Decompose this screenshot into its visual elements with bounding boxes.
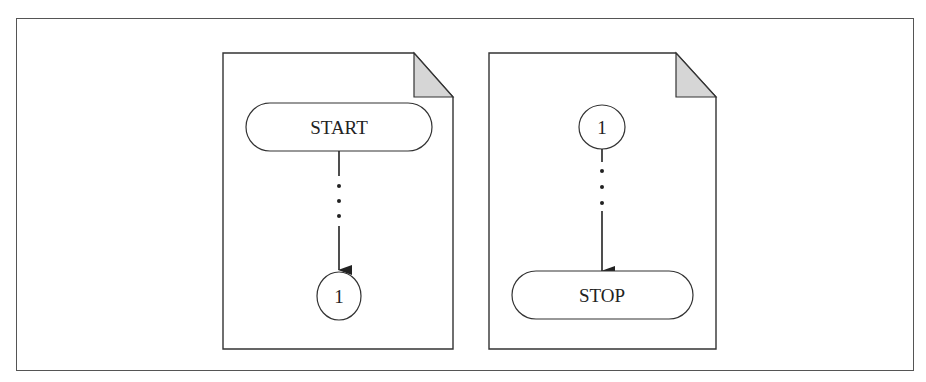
ellipsis-dot (337, 199, 341, 203)
page-left-fold-icon (414, 53, 453, 97)
diagram-canvas: START 1 1 (0, 0, 926, 382)
connector-label: 1 (334, 286, 344, 307)
page-right: 1 STOP (489, 53, 716, 349)
ellipsis-dot (337, 184, 341, 188)
page-right-fold-icon (676, 53, 716, 97)
ellipsis-dot (600, 169, 604, 173)
ellipsis-dot (337, 214, 341, 218)
page-left: START 1 (223, 53, 453, 349)
connector-label: 1 (597, 117, 607, 138)
stop-terminal: STOP (512, 271, 693, 319)
off-page-connector-right: 1 (579, 105, 625, 149)
ellipsis-dot (600, 201, 604, 205)
stop-label: STOP (579, 285, 625, 306)
start-label: START (310, 117, 368, 138)
ellipsis-dot (600, 185, 604, 189)
flowchart-svg: START 1 1 (0, 0, 926, 382)
start-terminal: START (246, 103, 432, 151)
off-page-connector-left: 1 (317, 272, 361, 320)
